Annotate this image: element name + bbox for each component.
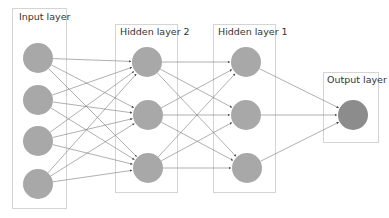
input-node-1 — [23, 43, 53, 73]
hidden-layer-1-label: Hidden layer 1 — [218, 26, 288, 37]
input-node-3 — [23, 126, 53, 156]
output-nodes — [338, 100, 368, 130]
input-node-4 — [23, 169, 53, 199]
input-layer-label: Input layer — [19, 11, 71, 22]
hidden-layer-2-label: Hidden layer 2 — [120, 26, 190, 37]
hidden-2-node-3 — [133, 153, 163, 183]
connections — [48, 59, 339, 182]
input-node-2 — [23, 85, 53, 115]
output-layer-label: Output layer — [327, 74, 387, 85]
hidden-1-node-3 — [232, 153, 262, 183]
output-node-1 — [338, 100, 368, 130]
hidden-2-node-1 — [132, 47, 162, 77]
hidden-1-node-1 — [231, 47, 261, 77]
hidden-2-nodes — [132, 47, 163, 183]
neural-network-diagram: Input layer Hidden layer 2 Hidden layer … — [0, 0, 389, 218]
hidden-2-node-2 — [133, 100, 163, 130]
hidden-1-node-2 — [231, 100, 261, 130]
hidden-1-nodes — [231, 47, 262, 183]
